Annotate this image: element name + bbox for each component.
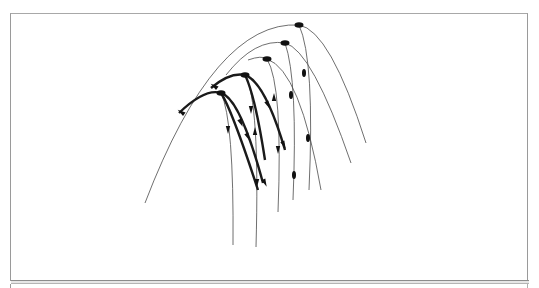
mid-dot-icon xyxy=(289,91,293,99)
apex-dot-icon xyxy=(241,72,250,78)
arrow-up-icon xyxy=(253,127,257,135)
apex-dot-icon xyxy=(263,56,272,62)
mid-dot-icon xyxy=(306,134,310,142)
arrow-down-icon xyxy=(249,106,253,114)
curve-2-line xyxy=(226,42,351,163)
apex-dot-icon xyxy=(281,40,290,46)
thick-4-line xyxy=(245,75,265,160)
drop-3-line xyxy=(267,59,279,212)
thick-2-line xyxy=(211,75,285,150)
drop-4-line xyxy=(245,75,257,247)
apex-dot-icon xyxy=(217,90,226,96)
thin-trajectories xyxy=(145,25,366,247)
apex-dot-icon xyxy=(295,22,304,28)
arrow-up-icon xyxy=(272,93,276,101)
mid-dot-icon xyxy=(292,171,296,179)
trajectory-diagram xyxy=(0,0,539,288)
mid-dot-icon xyxy=(302,69,306,77)
